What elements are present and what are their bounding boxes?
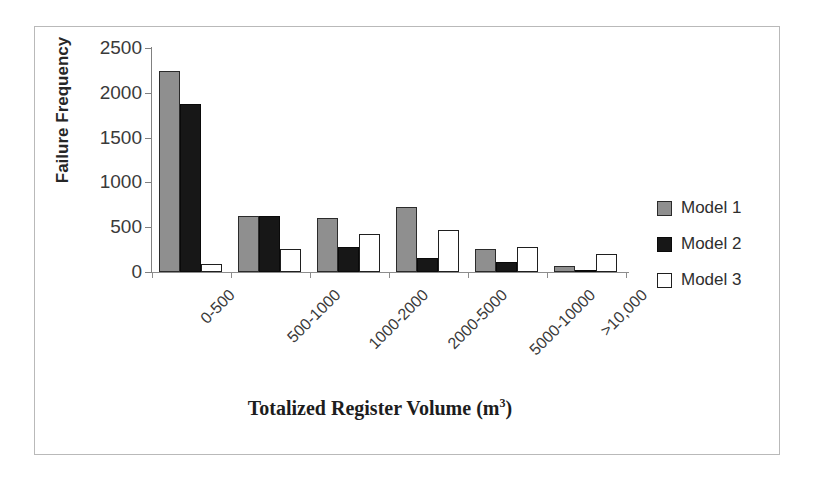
y-axis-tick-label: 1500 [82, 128, 142, 147]
legend-item-label: Model 1 [681, 198, 741, 218]
y-axis-tick-mark [145, 138, 152, 139]
legend-swatch-icon [657, 201, 672, 216]
bar-model-3-500-1000 [280, 249, 301, 272]
legend-item-label: Model 2 [681, 234, 741, 254]
x-axis-tick-mark [231, 272, 232, 278]
bar-model-3-2000-5000 [438, 230, 459, 272]
bar-model-2-1000-2000 [338, 247, 359, 272]
bar-model-1-5000-10000 [475, 249, 496, 272]
bar-model-1-0-500 [159, 71, 180, 272]
x-axis-title-text: Totalized Register Volume (m [248, 397, 500, 419]
bar-model-3-1000-2000 [359, 234, 380, 272]
bar-model-3--10-000 [596, 254, 617, 272]
y-axis-tick-label: 0 [82, 262, 142, 281]
x-axis-tick-mark [626, 272, 627, 278]
legend-item: Model 3 [657, 262, 777, 298]
bar-model-1-1000-2000 [317, 218, 338, 272]
y-axis-title: Failure Frequency [53, 25, 73, 195]
bar-model-1-500-1000 [238, 216, 259, 272]
y-axis-tick-label: 1000 [82, 172, 142, 191]
x-axis-line [151, 272, 629, 273]
y-axis-tick-mark [145, 48, 152, 49]
plot-area [152, 48, 622, 272]
y-axis-tick-label: 2000 [82, 83, 142, 102]
legend-swatch-icon [657, 237, 672, 252]
legend-item: Model 1 [657, 190, 777, 226]
y-axis-tick-mark [145, 182, 152, 183]
y-axis-tick-mark [145, 227, 152, 228]
x-axis-title: Totalized Register Volume (m3) [120, 396, 640, 420]
legend-item-label: Model 3 [681, 270, 741, 290]
x-axis-tick-mark [310, 272, 311, 278]
bar-model-2-2000-5000 [417, 258, 438, 272]
x-axis-tick-mark [152, 272, 153, 278]
y-axis-tick-label: 500 [82, 217, 142, 236]
legend-item: Model 2 [657, 226, 777, 262]
y-axis-tick-mark [145, 93, 152, 94]
x-axis-title-tail: ) [505, 397, 512, 419]
bar-model-3-0-500 [201, 264, 222, 272]
x-axis-tick-mark [389, 272, 390, 278]
bar-model-2-0-500 [180, 104, 201, 272]
legend-swatch-icon [657, 273, 672, 288]
bar-model-3-5000-10000 [517, 247, 538, 272]
x-axis-tick-mark [468, 272, 469, 278]
bar-model-2-5000-10000 [496, 262, 517, 272]
bar-model-2-500-1000 [259, 216, 280, 272]
chart-legend: Model 1Model 2Model 3 [657, 190, 777, 298]
y-axis-tick-label: 2500 [82, 38, 142, 57]
y-axis-tick-mark [145, 272, 152, 273]
bar-model-1-2000-5000 [396, 207, 417, 272]
bar-model-2--10-000 [575, 270, 596, 272]
bar-model-1--10-000 [554, 266, 575, 272]
x-axis-tick-mark [547, 272, 548, 278]
